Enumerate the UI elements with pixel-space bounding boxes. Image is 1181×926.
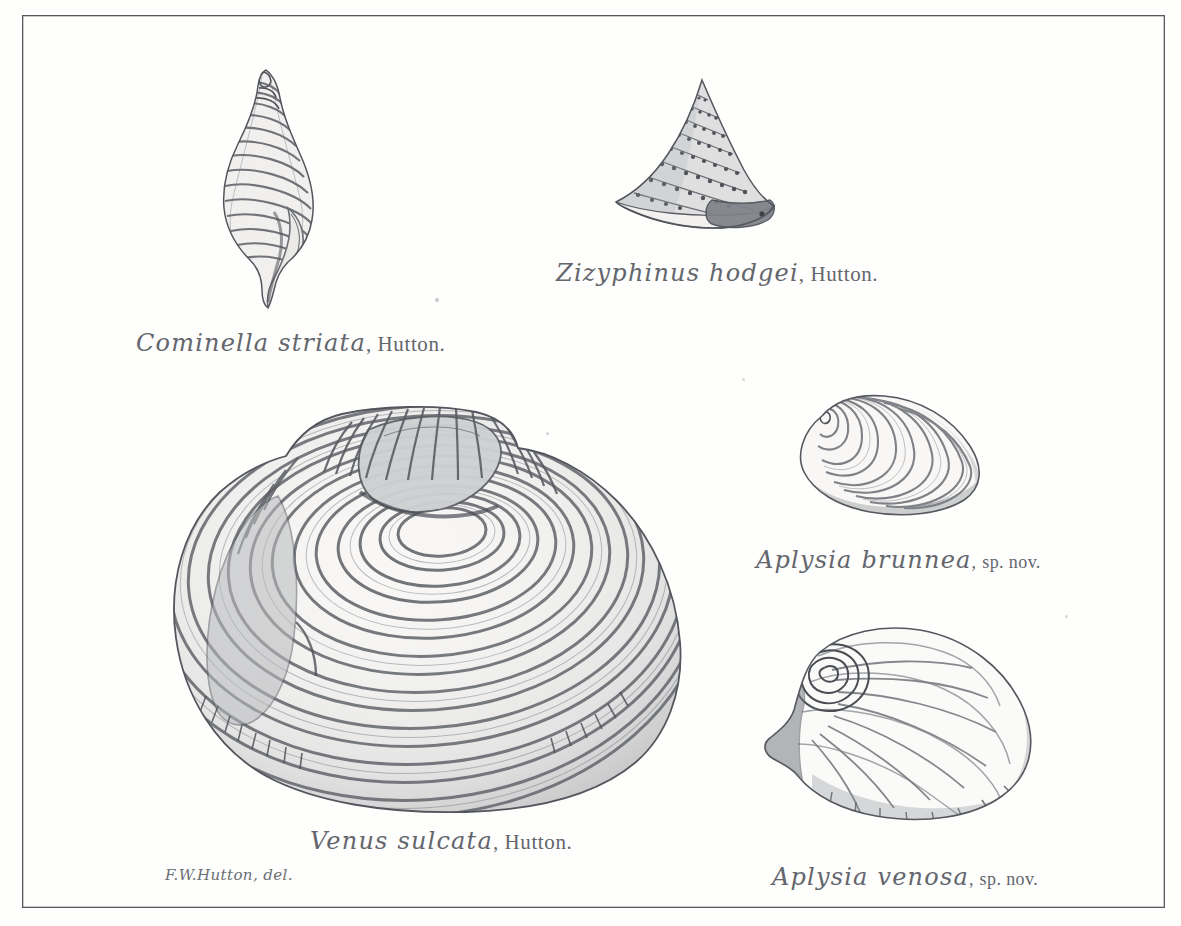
authority-name: Hutton.	[378, 332, 446, 356]
gastropod-fusiform-shell-icon	[196, 62, 346, 312]
caption-venus-sulcata: Venus sulcata, Hutton.	[310, 829, 572, 853]
figure-cominella-striata	[196, 62, 346, 312]
paper-speck	[1065, 615, 1068, 618]
paper-speck	[380, 612, 383, 615]
caption-separator: ,	[366, 332, 372, 356]
ear-shaped-shell-icon	[788, 386, 994, 522]
authority-name: Hutton.	[810, 262, 878, 286]
gastropod-conical-top-shell-icon	[604, 74, 796, 234]
paper-speck	[742, 378, 745, 381]
caption-separator: ,	[493, 830, 499, 854]
plate-canvas: Cominella striata, Hutton.	[0, 0, 1181, 926]
caption-zizyphinus-hodgei: Zizyphinus hodgei, Hutton.	[556, 261, 878, 285]
caption-aplysia-venosa: Aplysia venosa, sp. nov.	[772, 865, 1038, 889]
species-name: Aplysia venosa	[772, 863, 969, 891]
authority-name: Hutton.	[505, 830, 573, 854]
figure-zizyphinus-hodgei	[604, 74, 796, 234]
caption-separator: ,	[969, 869, 974, 889]
species-name: Venus sulcata	[310, 827, 493, 855]
caption-separator: ,	[972, 552, 977, 572]
caption-aplysia-brunnea: Aplysia brunnea, sp. nov.	[756, 548, 1041, 572]
artist-credit: F.W.Hutton, del.	[165, 866, 293, 884]
species-name: Aplysia brunnea	[756, 546, 972, 574]
caption-cominella-striata: Cominella striata, Hutton.	[136, 331, 445, 355]
caption-separator: ,	[799, 262, 805, 286]
species-name: Cominella striata	[136, 329, 366, 357]
authority-name: sp. nov.	[982, 552, 1041, 572]
ear-shaped-veined-shell-icon	[758, 616, 1040, 828]
authority-name: sp. nov.	[980, 869, 1039, 889]
figure-aplysia-venosa	[758, 616, 1040, 828]
paper-speck	[546, 432, 549, 435]
figure-aplysia-brunnea	[788, 386, 994, 522]
bivalve-concentric-ribbed-shell-icon	[146, 396, 694, 816]
species-name: Zizyphinus hodgei	[556, 259, 799, 287]
figure-venus-sulcata	[146, 396, 694, 816]
paper-speck	[435, 298, 439, 302]
